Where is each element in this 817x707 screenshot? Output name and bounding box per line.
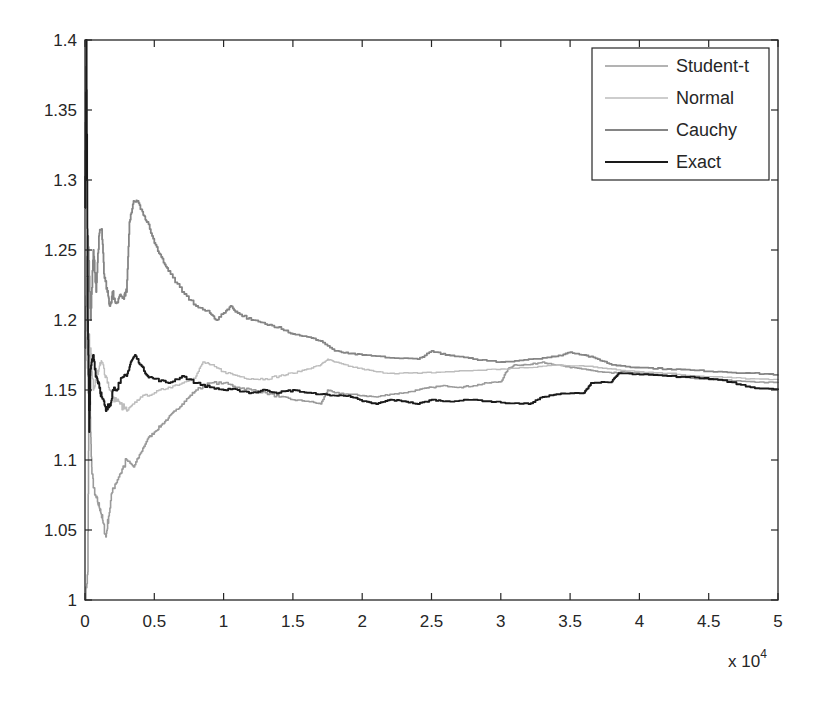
x-tick-label: 0 xyxy=(80,612,89,631)
y-tick-label: 1.05 xyxy=(44,521,77,540)
legend-label: Exact xyxy=(676,152,721,172)
y-tick-label: 1.4 xyxy=(53,31,77,50)
y-tick-label: 1.35 xyxy=(44,101,77,120)
x-tick-label: 2 xyxy=(357,612,366,631)
x-tick-label: 2.5 xyxy=(420,612,444,631)
x-tick-label: 4 xyxy=(635,612,644,631)
y-tick-label: 1.3 xyxy=(53,171,77,190)
y-tick-label: 1.15 xyxy=(44,381,77,400)
legend-label: Normal xyxy=(676,88,734,108)
y-tick-label: 1.1 xyxy=(53,451,77,470)
y-tick-label: 1 xyxy=(68,591,77,610)
x-tick-label: 0.5 xyxy=(142,612,166,631)
line-chart: 00.511.522.533.544.55 11.051.11.151.21.2… xyxy=(0,0,817,707)
y-tick-label: 1.25 xyxy=(44,241,77,260)
x-tick-label: 3.5 xyxy=(558,612,582,631)
x-tick-label: 4.5 xyxy=(697,612,721,631)
y-tick-label: 1.2 xyxy=(53,311,77,330)
x-tick-label: 5 xyxy=(773,612,782,631)
legend-label: Student-t xyxy=(676,56,749,76)
x-tick-label: 3 xyxy=(496,612,505,631)
x-tick-label: 1.5 xyxy=(281,612,305,631)
legend-label: Cauchy xyxy=(676,120,737,140)
legend: Student-tNormalCauchyExact xyxy=(592,48,769,180)
x-tick-label: 1 xyxy=(219,612,228,631)
